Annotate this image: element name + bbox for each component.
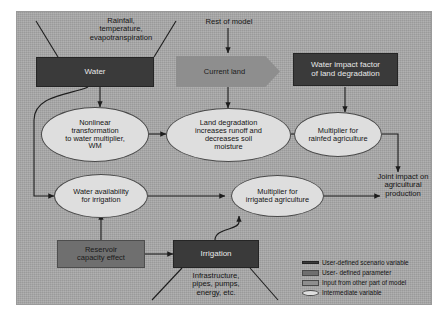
node-water[interactable]: Water: [36, 57, 154, 87]
node-multiplier-rainfed-label: Multiplier for rainfed agriculture: [308, 127, 367, 143]
node-water-impact-factor-label: Water impact factor of land degradation: [311, 61, 380, 78]
node-current-land[interactable]: Current land: [176, 56, 280, 87]
label-rainfall-temperature-evapotranspiration: Rainfall, temperature, evapotranspiratio…: [66, 17, 176, 42]
node-water-label: Water: [84, 68, 105, 76]
node-water-impact-factor[interactable]: Water impact factor of land degradation: [293, 53, 398, 86]
legend-item-input: Input from other part of model: [302, 278, 428, 287]
legend-label-intermediate: Intermediate variable: [322, 289, 382, 296]
node-multiplier-rainfed[interactable]: Multiplier for rainfed agriculture: [294, 112, 382, 157]
legend-swatch-input-icon: [302, 280, 319, 286]
node-current-land-label: Current land: [204, 68, 245, 76]
node-water-availability-label: Water availability for irrigation: [73, 188, 129, 204]
legend-label-input: Input from other part of model: [322, 279, 406, 286]
legend-item-intermediate: Intermediate variable: [302, 288, 428, 297]
legend-swatch-intermediate-icon: [302, 290, 319, 296]
node-multiplier-irrigated[interactable]: Multiplier for irrigated agriculture: [231, 175, 324, 217]
node-reservoir-capacity-effect[interactable]: Reservoir capacity effect: [57, 240, 145, 268]
node-land-degradation-label: Land degradation increases runoff and de…: [195, 119, 262, 150]
node-land-degradation[interactable]: Land degradation increases runoff and de…: [166, 108, 291, 162]
diagram-screenshot: Rainfall, temperature, evapotranspiratio…: [0, 0, 448, 322]
legend-item-scenario: User-defined scenario variable: [302, 258, 428, 267]
label-rest-of-model: Rest of model: [190, 18, 268, 26]
node-multiplier-irrigated-label: Multiplier for irrigated agriculture: [246, 188, 309, 204]
label-infrastructure: Infrastructure, pipes, pumps, energy, et…: [172, 272, 260, 297]
label-joint-impact-on-agricultural-production: Joint impact on agricultural production: [362, 173, 444, 198]
legend-swatch-parameter-icon: [302, 270, 319, 276]
legend: User-defined scenario variable User- def…: [302, 258, 428, 298]
node-nonlinear-transformation-label: Nonlinear transformation to water multip…: [65, 119, 125, 150]
node-reservoir-capacity-effect-label: Reservoir capacity effect: [77, 246, 125, 262]
legend-label-scenario: User-defined scenario variable: [322, 259, 409, 266]
node-nonlinear-transformation[interactable]: Nonlinear transformation to water multip…: [41, 107, 149, 162]
legend-swatch-scenario-icon: [302, 261, 319, 264]
node-irrigation-label: Irrigation: [200, 250, 231, 258]
legend-item-parameter: User- defined parameter: [302, 268, 428, 277]
node-water-availability[interactable]: Water availability for irrigation: [54, 174, 148, 218]
node-irrigation[interactable]: Irrigation: [173, 240, 259, 268]
legend-label-parameter: User- defined parameter: [322, 269, 391, 276]
